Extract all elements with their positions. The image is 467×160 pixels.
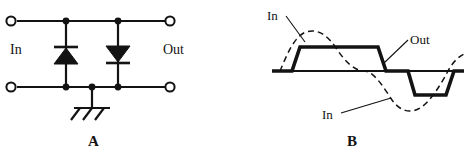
waveform-input-bottom-label: In — [322, 108, 333, 121]
panel-b-waveform: In Out In B — [234, 0, 467, 160]
ground-hatch-3 — [95, 108, 104, 120]
output-top-terminal — [165, 16, 174, 25]
in-top-leader-line — [286, 16, 305, 42]
out-leader-line — [384, 40, 408, 63]
panel-b-caption: B — [347, 134, 357, 149]
diode-d2-anode-triangle — [106, 46, 130, 62]
circuit-schematic-svg — [0, 0, 234, 160]
panel-a-caption: A — [88, 134, 99, 149]
in-bottom-leader-line — [341, 98, 391, 113]
circuit-output-label: Out — [163, 43, 184, 57]
diode-d1-anode-triangle — [54, 48, 78, 64]
output-bottom-terminal — [165, 82, 174, 91]
ground-hatch-1 — [71, 108, 80, 120]
panel-a-circuit: In Out A — [0, 0, 234, 160]
figure-root: In Out A In Out In B — [0, 0, 467, 160]
waveform-output-label: Out — [410, 33, 430, 46]
ground-hatch-2 — [83, 108, 92, 120]
junction-dot-top-right — [115, 18, 122, 25]
junction-dot-bottom-right — [115, 84, 122, 91]
input-top-terminal — [6, 16, 15, 25]
junction-dot-top-left — [63, 18, 70, 25]
input-bottom-terminal — [6, 82, 15, 91]
junction-dot-bottom-left — [63, 84, 70, 91]
circuit-input-label: In — [10, 43, 22, 57]
junction-dot-ground — [89, 84, 96, 91]
waveform-input-top-label: In — [267, 9, 278, 22]
